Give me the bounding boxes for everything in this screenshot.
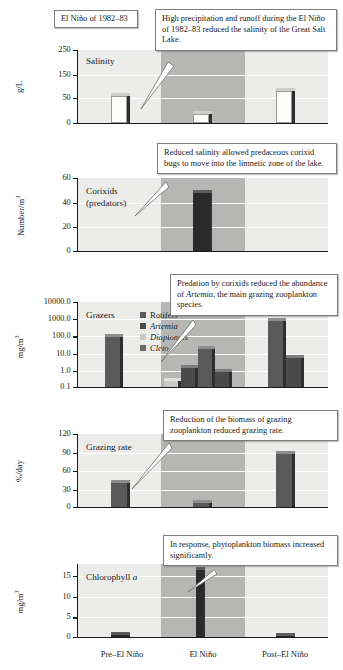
y-ticks-grazers: 10000.0 1000.0 100.0 10.0 1.0 0.1 bbox=[0, 302, 77, 388]
legend-swatch bbox=[140, 334, 146, 340]
callout-leader-salinity bbox=[128, 62, 174, 110]
y-axis-label-grazers: mg/m3 bbox=[13, 316, 25, 378]
y-tick-label: 150 bbox=[58, 71, 70, 79]
bar-front-face bbox=[193, 193, 209, 251]
plot-title-corixids: Corixids bbox=[86, 186, 118, 196]
callout-salinity: High precipitation and runoff during the… bbox=[155, 9, 337, 51]
y-axis-chlorophyll bbox=[77, 564, 78, 638]
bar-grazers-post-rotifers bbox=[268, 318, 286, 387]
callout-leader-grazers bbox=[158, 320, 196, 364]
callout-grazers: Predation by corixids reduced the abunda… bbox=[170, 274, 338, 316]
plot-area-corixids: Corixids (predators) bbox=[78, 178, 328, 252]
bar-front-face bbox=[181, 368, 195, 387]
bar-salinity-elnino bbox=[193, 111, 212, 123]
bar-front-face bbox=[193, 503, 209, 507]
y-tick-label: 90 bbox=[62, 449, 70, 457]
bar-front-face bbox=[268, 321, 283, 387]
y-axis-grazing-rate bbox=[77, 434, 78, 508]
y-axis-label-salinity: g/L bbox=[14, 64, 24, 110]
bar-grazing-rate-pre bbox=[111, 480, 130, 507]
plot-subtitle-corixids: (predators) bbox=[86, 198, 126, 208]
legend-swatch bbox=[140, 345, 146, 351]
bar-front-face bbox=[111, 96, 127, 123]
legend-swatch bbox=[140, 323, 146, 329]
callout-text: Reduced salinity allowed predaceous cori… bbox=[164, 148, 324, 168]
plot-title-text: Chlorophyll bbox=[86, 572, 133, 582]
bar-salinity-post bbox=[276, 88, 295, 123]
plot-title-grazers: Grazers bbox=[86, 310, 115, 320]
bar-grazers-elnino-cleto bbox=[215, 369, 232, 387]
figure-great-salt-lake-el-nino: El Niño of 1982–83 Salinit bbox=[0, 0, 343, 670]
bar-grazers-elnino-rotifers bbox=[164, 378, 181, 387]
y-tick-label: 20 bbox=[62, 223, 70, 231]
y-tick-label: 100.0 bbox=[52, 332, 71, 340]
bar-side-face bbox=[209, 193, 212, 251]
y-tick-label: 60 bbox=[62, 174, 70, 182]
callout-corixids: Reduced salinity allowed predaceous cori… bbox=[157, 143, 337, 174]
bar-front-face bbox=[111, 635, 127, 637]
y-tick-label: 60 bbox=[62, 467, 70, 475]
plot-title-grazing-rate: Grazing rate bbox=[86, 442, 132, 452]
bar-side-face bbox=[292, 91, 295, 123]
bar-grazers-pre-rotifers bbox=[105, 334, 123, 387]
y-tick-label: 15 bbox=[62, 572, 70, 580]
callout-grazing-rate: Reduction of the biomass of grazing zoop… bbox=[163, 410, 338, 441]
bar-grazing-rate-post bbox=[276, 451, 295, 507]
y-tick-label: 0 bbox=[67, 247, 71, 255]
callout-leader-corixids bbox=[133, 182, 169, 218]
bar-side-face bbox=[209, 503, 212, 507]
bar-front-face bbox=[111, 483, 127, 507]
panel-chlorophyll: Chlorophyll a 15 10 5 0 mg/m3 bbox=[0, 558, 343, 644]
category-label-post: Post–El Niño bbox=[262, 649, 308, 659]
y-tick-label: 0 bbox=[67, 633, 71, 641]
bar-grazers-post-artemia bbox=[286, 355, 304, 387]
gridline bbox=[78, 75, 328, 76]
y-ticks-grazing-rate: 120 90 60 30 0 bbox=[0, 434, 77, 508]
y-tick-label: 30 bbox=[62, 486, 70, 494]
gridline bbox=[78, 319, 328, 320]
y-axis-label-corixids: Number/m3 bbox=[14, 178, 26, 254]
y-tick-label: 10 bbox=[62, 593, 70, 601]
bar-corixids-elnino bbox=[193, 190, 212, 251]
bar-front-face bbox=[215, 372, 229, 387]
bar-side-face bbox=[209, 114, 212, 123]
callout-text: High precipitation and runoff during the… bbox=[162, 14, 325, 44]
bar-chlorophyll-post bbox=[276, 633, 295, 637]
y-tick-label: 120 bbox=[58, 430, 70, 438]
bar-side-face bbox=[127, 635, 130, 637]
callout-chlorophyll: In response, phytoplankton biomass incre… bbox=[163, 535, 338, 566]
y-tick-label: 5 bbox=[67, 613, 71, 621]
y-axis-label-grazing-rate: %/day bbox=[14, 444, 24, 498]
bar-grazing-rate-elnino bbox=[193, 500, 212, 507]
y-tick-label: 250 bbox=[58, 46, 70, 54]
y-tick-label: 40 bbox=[62, 199, 70, 207]
callout-leader-grazing-rate bbox=[130, 443, 172, 491]
bar-side-face bbox=[292, 636, 295, 637]
legend-swatch bbox=[140, 312, 146, 318]
y-ticks-salinity: 250 150 50 0 bbox=[0, 50, 77, 124]
y-ticks-chlorophyll: 15 10 5 0 bbox=[0, 564, 77, 638]
bar-side-face bbox=[301, 358, 304, 387]
plot-title-salinity: Salinity bbox=[86, 56, 115, 66]
y-ticks-corixids: 60 40 20 0 bbox=[0, 178, 77, 252]
callout-text: Reduction of the biomass of grazing zoop… bbox=[170, 415, 292, 435]
category-label-elnino: El Niño bbox=[190, 649, 217, 659]
plot-title-italic: a bbox=[133, 572, 138, 582]
el-nino-tag-box: El Niño of 1982–83 bbox=[54, 10, 138, 28]
y-tick-label: 0.1 bbox=[60, 383, 70, 391]
bar-front-face bbox=[286, 358, 301, 387]
bar-chlorophyll-pre bbox=[111, 632, 130, 637]
plot-area-grazing-rate: Grazing rate bbox=[78, 434, 328, 508]
bar-front-face bbox=[198, 349, 212, 387]
bar-grazers-elnino-diaptomas bbox=[198, 346, 215, 387]
bar-side-face bbox=[120, 337, 123, 387]
callout-text: Predation by corixids reduced the abunda… bbox=[177, 279, 327, 309]
y-tick-label: 10.0 bbox=[56, 350, 71, 358]
y-tick-label: 1000.0 bbox=[48, 315, 71, 323]
bar-grazers-elnino-artemia bbox=[181, 365, 198, 387]
y-tick-label: 10000.0 bbox=[44, 298, 71, 306]
panel-corixids: Corixids (predators) 60 40 20 0 Number/m… bbox=[0, 172, 343, 258]
bar-front-face bbox=[164, 381, 178, 387]
y-tick-label: 50 bbox=[62, 94, 70, 102]
bar-front-face bbox=[105, 337, 120, 387]
